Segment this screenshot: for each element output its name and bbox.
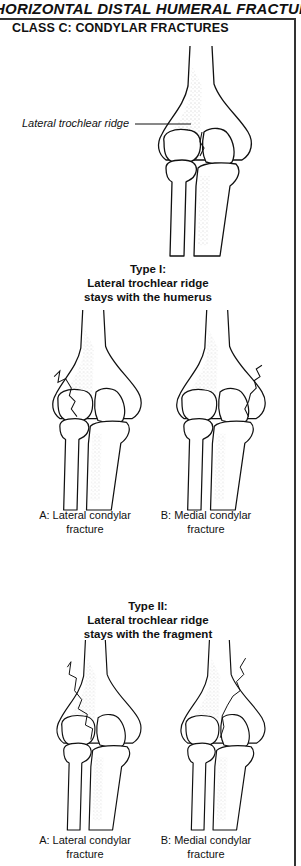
type2-heading-line2: Lateral trochlear ridge — [0, 613, 296, 627]
type2-caption-b: B: Medial condylar fracture — [146, 833, 266, 861]
type1-caption-a: A: Lateral condylar fracture — [25, 508, 145, 536]
callout-leader-line — [135, 123, 195, 127]
elbow-illustration-type2-lateral — [44, 640, 154, 830]
type1-heading: Type I: Lateral trochlear ridge stays wi… — [0, 262, 296, 304]
type2-caption-a-line1: A: Lateral condylar — [25, 833, 145, 847]
type1-heading-line1: Type I: — [0, 262, 296, 276]
elbow-illustration-type2-medial — [168, 640, 278, 830]
type1-caption-b: B: Medial condylar fracture — [146, 508, 266, 536]
page-title: HORIZONTAL DISTAL HUMERAL FRACTURES — [0, 0, 301, 17]
type1-caption-b-line2: fracture — [146, 522, 266, 536]
type1-caption-b-line1: B: Medial condylar — [146, 508, 266, 522]
type2-caption-b-line1: B: Medial condylar — [146, 833, 266, 847]
type2-heading-line1: Type II: — [0, 599, 296, 613]
type2-heading: Type II: Lateral trochlear ridge stays w… — [0, 599, 296, 641]
elbow-illustration-normal — [150, 46, 260, 256]
callout-lateral-trochlear-ridge: Lateral trochlear ridge — [22, 117, 129, 129]
type2-caption-a: A: Lateral condylar fracture — [25, 833, 145, 861]
type1-caption-a-line2: fracture — [25, 522, 145, 536]
type1-heading-line2: Lateral trochlear ridge — [0, 276, 296, 290]
type1-heading-line3: stays with the humerus — [0, 290, 296, 304]
type2-caption-a-line2: fracture — [25, 847, 145, 861]
class-title: CLASS C: CONDYLAR FRACTURES — [12, 21, 229, 35]
elbow-illustration-type1-lateral — [42, 310, 152, 510]
elbow-illustration-type1-medial — [166, 310, 276, 510]
type1-caption-a-line1: A: Lateral condylar — [25, 508, 145, 522]
type2-caption-b-line2: fracture — [146, 847, 266, 861]
type2-heading-line3: stays with the fragment — [0, 627, 296, 641]
